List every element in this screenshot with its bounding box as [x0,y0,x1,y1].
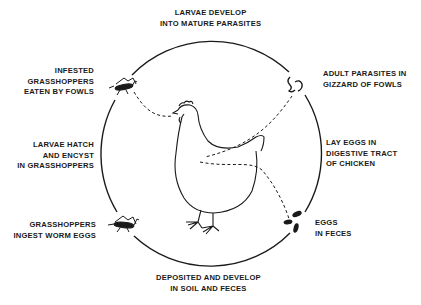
arc-bottom [134,233,290,266]
grasshopper-icon-upper [109,78,137,95]
path-gizzard-to-chicken [205,96,292,157]
label-eggs-in-feces: EGGS IN FECES [315,218,352,239]
label-grasshoppers-ingest: GRASSHOPPERS INGEST WORM EGGS [13,220,96,241]
label-adult-parasites: ADULT PARASITES IN GIZZARD OF FOWLS [323,69,406,90]
cycle-circle [101,41,322,266]
chicken-icon [173,101,264,234]
eggs-icon [283,210,302,234]
label-deposited: DEPOSITED AND DEVELOP IN SOIL AND FECES [156,273,261,294]
path-grasshopper-to-beak [134,92,173,116]
worm-icon [288,77,302,92]
arc-top [132,41,289,75]
grasshopper-icon-lower [108,216,139,232]
dashed-paths [134,92,292,222]
label-larvae-hatch: LARVAE HATCH AND ENCYST IN GRASSHOPPERS [17,140,94,172]
label-larvae-develop: LARVAE DEVELOP INTO MATURE PARASITES [160,8,261,29]
arc-left [101,100,117,212]
label-lay-eggs: LAY EGGS IN DIGESTIVE TRACT OF CHICKEN [326,138,397,170]
label-infested-grasshoppers: INFESTED GRASSHOPPERS EATEN BY FOWLS [24,66,94,98]
arc-right [305,95,321,212]
